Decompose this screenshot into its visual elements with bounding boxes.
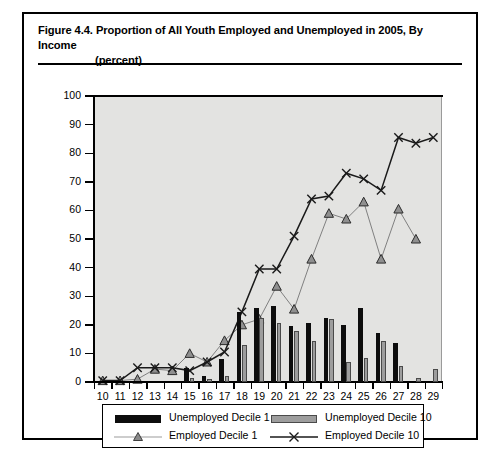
marker-triangle-icon bbox=[290, 305, 299, 314]
y-tick-label: 10 bbox=[37, 347, 81, 357]
x-tick bbox=[442, 382, 443, 389]
y-tick bbox=[85, 181, 94, 183]
y-tick-label: 40 bbox=[37, 262, 81, 272]
y-tick-label: 30 bbox=[37, 290, 81, 300]
y-tick-label: 90 bbox=[37, 119, 81, 129]
bar-unemployed-decile-10 bbox=[294, 331, 299, 382]
marker-triangle-icon bbox=[359, 197, 368, 206]
y-tick-label: 70 bbox=[37, 176, 81, 186]
legend-cross-marker-icon bbox=[269, 430, 319, 444]
x-tick bbox=[216, 382, 217, 389]
bar-unemployed-decile-10 bbox=[259, 318, 264, 382]
marker-cross-icon bbox=[412, 139, 420, 147]
y-tick-label: 100 bbox=[37, 90, 81, 100]
bar-unemployed-decile-10 bbox=[207, 379, 212, 382]
line-series-layer bbox=[94, 96, 442, 382]
x-tick bbox=[320, 382, 321, 389]
legend-swatch-black-icon bbox=[115, 415, 161, 423]
x-tick bbox=[285, 382, 286, 389]
marker-cross-icon bbox=[429, 133, 437, 141]
bar-unemployed-decile-10 bbox=[329, 319, 334, 382]
chart-legend: Unemployed Decile 1 Unemployed Decile 10… bbox=[102, 404, 424, 448]
bar-unemployed-decile-1 bbox=[376, 333, 381, 382]
legend-label-employed-decile-10: Employed Decile 10 bbox=[325, 429, 419, 441]
x-tick bbox=[198, 382, 199, 389]
marker-cross-icon bbox=[290, 232, 298, 240]
x-tick bbox=[251, 382, 252, 389]
bar-unemployed-decile-1 bbox=[393, 343, 398, 382]
bar-unemployed-decile-10 bbox=[416, 378, 421, 382]
bar-unemployed-decile-1 bbox=[341, 325, 346, 382]
bar-unemployed-decile-10 bbox=[346, 362, 351, 382]
title-divider bbox=[38, 63, 462, 65]
marker-triangle-icon bbox=[377, 254, 386, 263]
marker-triangle-icon bbox=[307, 254, 316, 263]
legend-label-unemployed-decile-10: Unemployed Decile 10 bbox=[325, 411, 432, 423]
figure-number: Figure 4.4. bbox=[38, 24, 93, 36]
x-tick bbox=[268, 382, 269, 389]
legend-label-unemployed-decile-1: Unemployed Decile 1 bbox=[169, 411, 270, 423]
y-tick bbox=[85, 296, 94, 298]
bar-unemployed-decile-10 bbox=[242, 345, 247, 382]
x-tick bbox=[407, 382, 408, 389]
legend-label-employed-decile-1: Employed Decile 1 bbox=[169, 429, 257, 441]
bar-unemployed-decile-10 bbox=[364, 358, 369, 382]
plot-wrapper: 0102030405060708090100 10111213141516171… bbox=[38, 76, 462, 394]
y-tick bbox=[85, 381, 94, 383]
legend-item-unemployed-decile-10: Unemployed Decile 10 bbox=[267, 412, 427, 426]
marker-triangle-icon bbox=[394, 204, 403, 213]
y-tick-label: 0 bbox=[37, 376, 81, 386]
x-tick-label: 29 bbox=[422, 390, 444, 402]
bar-unemployed-decile-1 bbox=[324, 318, 329, 382]
figure-title: Figure 4.4. Proportion of All Youth Empl… bbox=[38, 23, 462, 68]
legend-swatch-gray-icon bbox=[271, 415, 317, 423]
y-tick bbox=[85, 324, 94, 326]
figure-title-line2: (percent) bbox=[95, 53, 462, 68]
figure-panel: Figure 4.4. Proportion of All Youth Empl… bbox=[0, 0, 500, 466]
y-tick-label: 20 bbox=[37, 319, 81, 329]
plot-top-border bbox=[94, 95, 443, 97]
bar-unemployed-decile-1 bbox=[289, 326, 294, 382]
y-tick-label: 50 bbox=[37, 233, 81, 243]
page-footer-fragment bbox=[22, 452, 322, 462]
x-tick bbox=[390, 382, 391, 389]
x-tick bbox=[164, 382, 165, 389]
x-tick bbox=[355, 382, 356, 389]
legend-triangle-marker-icon bbox=[113, 430, 163, 444]
marker-triangle-icon bbox=[272, 282, 281, 291]
bar-unemployed-decile-10 bbox=[225, 376, 230, 382]
x-tick bbox=[372, 382, 373, 389]
bar-unemployed-decile-10 bbox=[399, 366, 404, 382]
bar-unemployed-decile-10 bbox=[312, 341, 317, 382]
bar-unemployed-decile-10 bbox=[433, 369, 438, 382]
x-tick bbox=[303, 382, 304, 389]
x-tick bbox=[94, 382, 95, 389]
x-tick bbox=[146, 382, 147, 389]
plot-area bbox=[94, 96, 442, 382]
y-tick bbox=[85, 267, 94, 269]
bar-unemployed-decile-1 bbox=[237, 312, 242, 382]
bar-unemployed-decile-1 bbox=[219, 359, 224, 382]
bar-unemployed-decile-1 bbox=[358, 308, 363, 382]
y-tick-label: 60 bbox=[37, 204, 81, 214]
marker-triangle-icon bbox=[411, 234, 420, 243]
marker-cross-icon bbox=[342, 169, 350, 177]
bar-unemployed-decile-1 bbox=[306, 323, 311, 382]
y-tick bbox=[85, 95, 94, 97]
x-tick bbox=[111, 382, 112, 389]
x-tick bbox=[425, 382, 426, 389]
figure-title-line1: Proportion of All Youth Employed and Une… bbox=[38, 24, 423, 51]
y-tick bbox=[85, 210, 94, 212]
marker-triangle-icon bbox=[324, 209, 333, 218]
bar-unemployed-decile-1 bbox=[254, 308, 259, 382]
y-tick bbox=[85, 353, 94, 355]
bar-unemployed-decile-10 bbox=[190, 378, 195, 382]
y-tick bbox=[85, 153, 94, 155]
y-tick bbox=[85, 238, 94, 240]
marker-cross-icon bbox=[220, 348, 228, 356]
bar-unemployed-decile-1 bbox=[271, 306, 276, 382]
marker-cross-icon bbox=[360, 175, 368, 183]
legend-item-employed-decile-10: Employed Decile 10 bbox=[267, 430, 427, 444]
legend-item-employed-decile-1: Employed Decile 1 bbox=[111, 430, 261, 444]
bar-unemployed-decile-1 bbox=[184, 368, 189, 382]
